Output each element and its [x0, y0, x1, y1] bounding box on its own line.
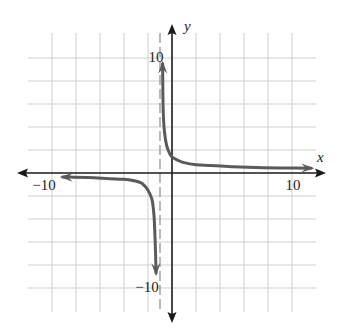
graph-canvas: x y −10 10 10 −10 [0, 0, 340, 332]
right-branch-curve [163, 64, 312, 168]
y-axis-label: y [182, 18, 191, 34]
y-tick-min: −10 [135, 279, 158, 295]
x-axis-label: x [316, 149, 324, 165]
hyperbola-curves [60, 61, 314, 276]
axes [17, 24, 326, 323]
x-tick-max: 10 [286, 177, 301, 193]
left-branch-curve [63, 177, 156, 273]
x-tick-min: −10 [32, 177, 55, 193]
y-tick-max: 10 [149, 49, 164, 65]
